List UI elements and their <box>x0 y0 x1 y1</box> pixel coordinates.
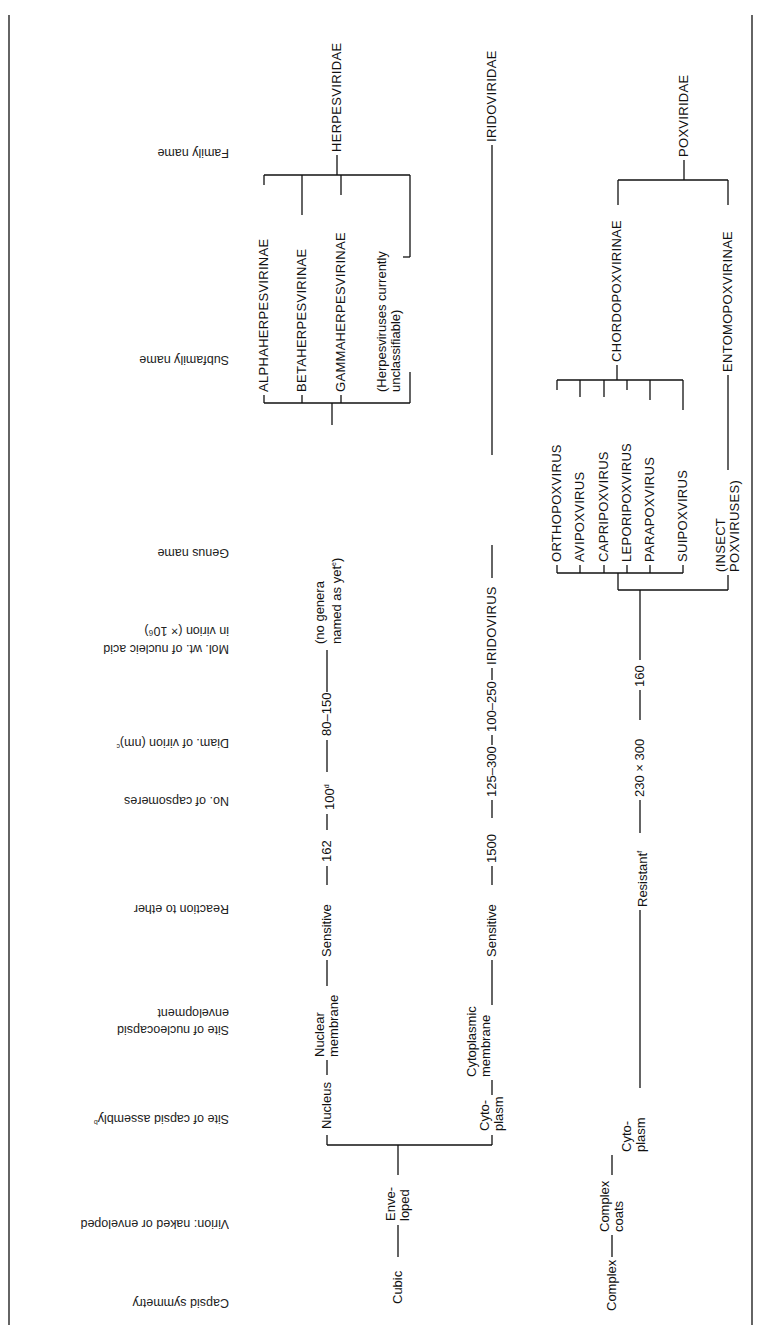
genus-parapoxvirus: PARAPOXVIRUS <box>643 456 657 563</box>
subfamily-chordopoxvirinae: CHORDOPOXVIRINAE <box>610 219 624 363</box>
header-site-capsid-assembly: Site of capsid assemblyb <box>94 1111 229 1130</box>
subfamily-entomopoxvirinae: ENTOMOPOXVIRINAE <box>721 230 735 373</box>
header-genus-name: Genus name <box>157 545 229 560</box>
herpes-assembly-nucleus: Nucleus <box>320 1081 334 1130</box>
herpes-molwt: 80–150 <box>320 692 334 737</box>
header-diameter-virion: Diam. of virion (nm)c <box>116 735 229 754</box>
irido-molwt: 100–250 <box>485 680 499 733</box>
header-reaction-to-ether: Reaction to ether <box>134 901 229 916</box>
taxonomy-table-page: Capsid symmetry Virion: naked or envelop… <box>0 0 757 1342</box>
herpes-genus-none: (no genera named as yete) <box>313 557 344 645</box>
header-no-capsomeres: No. of capsomeres <box>124 793 229 808</box>
header-mol-wt-line2: in virion (× 10⁶) <box>144 623 229 638</box>
complex-symmetry-label: Complex <box>605 1259 619 1312</box>
header-subfamily-name: Subfamily name <box>139 352 229 367</box>
genus-capripoxvirus: CAPRIPOXVIRUS <box>597 450 611 563</box>
genus-insect-poxviruses: (INSECT POXVIRUSES) <box>714 479 742 573</box>
header-mol-wt-line1: Mol. wt. of nucleic acid <box>103 641 229 656</box>
irido-envelopment-cytoplasmic-membrane: Cytoplasmic membrane <box>465 1005 493 1078</box>
subfamily-alphaherpesvirinae: ALPHAHERPESVIRINAE <box>257 237 271 393</box>
pox-ether-resistant: Resistantf <box>633 850 650 908</box>
family-poxviridae: POXVIRIDAE <box>677 74 691 158</box>
pox-molwt: 160 <box>633 664 647 688</box>
header-family-name: Family name <box>157 145 229 160</box>
genus-orthopoxvirus: ORTHOPOXVIRUS <box>550 443 564 563</box>
enveloped-label: Enve- loped <box>384 1186 412 1222</box>
genus-suipoxvirus: SUIPOXVIRUS <box>676 469 690 563</box>
herpes-unclassifiable: (Herpesviruses currently unclassifiable) <box>375 250 403 393</box>
herpes-ether-sensitive: Sensitive <box>320 903 334 958</box>
header-capsid-symmetry: Capsid symmetry <box>132 1295 229 1310</box>
subfamily-gammaherpesvirinae: GAMMAHERPESVIRINAE <box>334 231 348 393</box>
herpes-capsomeres: 162 <box>320 839 334 863</box>
irido-ether-sensitive: Sensitive <box>485 903 499 958</box>
irido-assembly-cytoplasm: Cyto- plasm <box>478 1095 506 1132</box>
family-herpesviridae: HERPESVIRIDAE <box>330 42 344 153</box>
header-site-envelopment-line2: envelopment <box>157 1005 229 1020</box>
family-iridoviridae: IRIDOVIRIDAE <box>485 49 499 143</box>
herpes-diameter: 100d <box>320 783 337 811</box>
genus-leporipoxvirus: LEPORIPOXVIRUS <box>620 442 634 563</box>
subfamily-betaherpesvirinae: BETAHERPESVIRINAE <box>295 247 309 393</box>
cubic-label: Cubic <box>391 1270 405 1305</box>
header-site-envelopment-line1: Site of nucleocapsid <box>117 1022 229 1037</box>
complex-coats-label: Complex coats <box>598 1180 626 1233</box>
genus-iridovirus: IRIDOVIRUS <box>485 585 499 666</box>
irido-capsomeres: 1500 <box>485 833 499 864</box>
pox-assembly-cytoplasm: Cyto- plasm <box>620 1116 648 1153</box>
irido-diameter: 125–300 <box>485 745 499 798</box>
pox-diameter: 230 × 300 <box>633 738 647 798</box>
header-virion-naked-enveloped: Virion: naked or enveloped <box>81 1216 230 1231</box>
genus-avipoxvirus: AVIPOXVIRUS <box>573 471 587 563</box>
herpes-envelopment-nuclear-membrane: Nuclear membrane <box>313 994 341 1058</box>
